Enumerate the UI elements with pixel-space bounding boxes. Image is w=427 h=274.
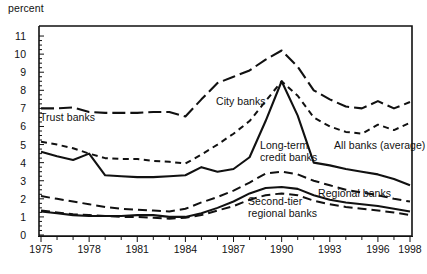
y-tick-label: 11: [8, 31, 26, 41]
y-tick-label: 10: [8, 49, 26, 59]
x-axis-tick-labels: 197519781981198419871990199319961998: [0, 243, 427, 263]
x-tick-label: 1981: [126, 243, 149, 255]
y-axis-tick-labels: 01234567891011: [4, 0, 26, 274]
x-tick-label: 1984: [174, 243, 197, 255]
y-tick-label: 3: [8, 176, 26, 186]
all-banks-average-label: All banks (average): [334, 140, 425, 152]
y-tick-label: 2: [8, 194, 26, 204]
y-tick-label: 5: [8, 140, 26, 150]
regional-banks-label: Regional banks: [318, 188, 391, 200]
city-banks-label: City banks: [216, 96, 266, 108]
y-tick-label: 4: [8, 158, 26, 168]
x-tick-label: 1998: [398, 243, 421, 255]
plot-area: [38, 25, 413, 237]
trust-banks-label: Trust banks: [40, 112, 95, 124]
x-tick-label: 1996: [366, 243, 389, 255]
x-tick-label: 1993: [318, 243, 341, 255]
y-tick-label: 6: [8, 121, 26, 131]
x-tick-label: 1978: [77, 243, 100, 255]
x-tick-label: 1990: [270, 243, 293, 255]
y-tick-label: 1: [8, 212, 26, 222]
plot-svg: [38, 25, 413, 237]
chart-figure: percent 01234567891011 19751978198119841…: [0, 0, 427, 274]
y-tick-label: 7: [8, 103, 26, 113]
y-tick-label: 9: [8, 67, 26, 77]
y-tick-label: 0: [8, 230, 26, 240]
second-tier-label: Second-tier regional banks: [248, 196, 317, 219]
x-tick-label: 1975: [29, 243, 52, 255]
y-tick-label: 8: [8, 85, 26, 95]
long-term-credit-label: Long-term credit banks: [260, 140, 317, 163]
x-tick-label: 1987: [222, 243, 245, 255]
